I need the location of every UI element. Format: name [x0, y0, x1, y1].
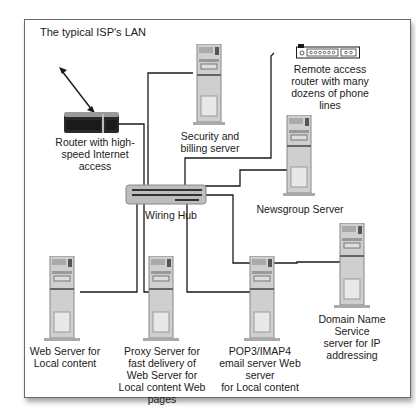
wiring-hub-icon [125, 183, 207, 206]
dns-server-icon [334, 223, 370, 311]
router-label: Router with high-speed Internetaccess [55, 136, 135, 172]
newsgroup-server-label: Newsgroup Server [250, 203, 350, 215]
pop3-server-icon [244, 256, 280, 344]
web-server-icon [44, 256, 80, 344]
newsgroup-server-icon [283, 115, 315, 199]
proxy-server-label: Proxy Server forfast delivery ofWeb Serv… [106, 345, 218, 405]
web-server-label: Web Server forLocal content [25, 345, 105, 369]
dns-server-label: Domain Name Serviceserver for IPaddressi… [300, 313, 404, 361]
security-server-label: Security andbilling server [175, 130, 245, 154]
router-icon [64, 112, 120, 134]
wiring-hub-label: Wiring Hub [145, 209, 205, 221]
security-server-icon [193, 44, 225, 128]
pop3-server-label: POP3/IMAP4email server Web serverfor Loc… [205, 345, 315, 393]
proxy-server-icon [143, 256, 179, 344]
remote-access-router-icon [296, 43, 360, 59]
remote-access-router-label: Remote accessrouter with manydozens of p… [280, 63, 380, 111]
